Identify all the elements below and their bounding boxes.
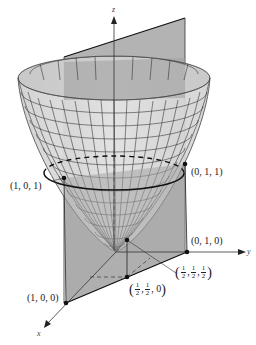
z-axis-label: z: [112, 6, 115, 14]
label-point-1-0-1: (1, 0, 1): [10, 181, 42, 191]
x-axis-label: x: [37, 330, 41, 338]
point-half-half-half: [125, 238, 130, 243]
point-1-0-0: [64, 301, 69, 306]
y-axis-label: y: [247, 248, 251, 256]
label-point-0-1-1: (0, 1, 1): [191, 167, 223, 177]
point-half-half-0: [125, 275, 130, 280]
label-point-half-half-0: (12,12, 0): [129, 282, 166, 297]
plane-front: [64, 164, 187, 303]
label-point-1-0-0: (1, 0, 0): [27, 293, 59, 303]
label-point-0-1-0: (0, 1, 0): [191, 236, 223, 246]
point-1-0-1: [62, 176, 67, 181]
point-0-1-0: [185, 250, 190, 255]
point-0-1-1: [183, 162, 188, 167]
label-point-half-half-half: (12,12,12): [175, 265, 212, 280]
